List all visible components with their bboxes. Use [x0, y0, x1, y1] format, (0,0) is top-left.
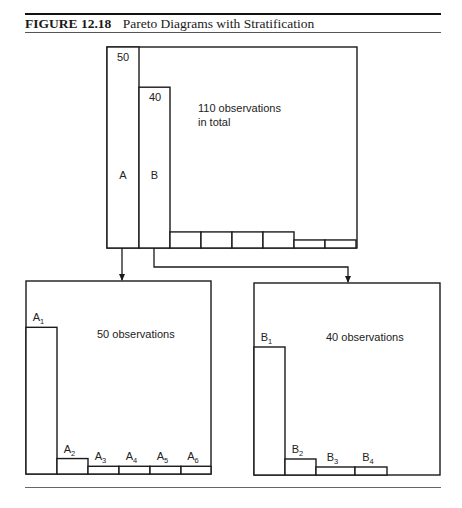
bar-category-subscript: 3 [334, 457, 338, 466]
bar-category-subscript: 2 [299, 449, 303, 458]
bar-category-subscript: 4 [370, 457, 374, 466]
bar-b [139, 87, 170, 248]
stratification-arrows [119, 248, 351, 283]
bar-a6 [181, 466, 211, 474]
bar-category-subscript: 2 [71, 449, 75, 458]
bar-other-5 [263, 232, 294, 248]
bar-category-label: A6 [187, 450, 199, 465]
chart-annotation: 50 observations [97, 328, 175, 340]
bottom-rule [25, 487, 441, 488]
bar-a2 [57, 459, 88, 474]
chart-annotation: 110 observations [198, 102, 281, 114]
bar-a3 [88, 466, 119, 474]
stratum-b-pareto-chart: B1B2B3B440 observations [254, 283, 440, 475]
stratum-a-pareto-chart: A1A2A3A4A5A650 observations [26, 281, 211, 474]
bar-other-6 [294, 240, 325, 248]
bar-value-label: 50 [117, 51, 129, 63]
bar-category-subscript: 3 [102, 456, 106, 465]
pareto-diagrams: 50A40B110 observationsin total A1A2A3A4A… [0, 0, 462, 508]
bar-b1 [254, 347, 285, 475]
arrow-head-icon [345, 276, 351, 283]
bar-a5 [150, 466, 181, 474]
arrow-head-icon [119, 274, 125, 281]
bar-other-2 [170, 232, 201, 248]
bar-b4 [355, 467, 387, 475]
bar-category-subscript: 4 [133, 456, 137, 465]
bar-category-label: A3 [95, 450, 107, 465]
bar-category-subscript: 5 [164, 456, 168, 465]
bar-other-7 [325, 240, 356, 248]
bar-category-label: B2 [292, 443, 304, 458]
chart-annotation: in total [198, 116, 230, 128]
bar-category-label: A2 [64, 443, 76, 458]
bar-category-label: A [119, 169, 127, 181]
bar-value-label: 40 [149, 91, 161, 103]
bar-a [107, 47, 139, 248]
bar-other-4 [232, 232, 263, 248]
bar-category-subscript: 6 [195, 456, 199, 465]
bar-category-label: A1 [33, 311, 45, 326]
bar-category-label: B1 [261, 331, 273, 346]
bar-category-label: A4 [126, 450, 138, 465]
chart-annotation: 40 observations [326, 331, 404, 343]
bar-category-label: B [151, 169, 158, 181]
bar-a4 [119, 466, 150, 474]
overall-pareto-chart: 50A40B110 observationsin total [107, 47, 357, 248]
arrow-b-to-stratum-b [154, 248, 348, 282]
bar-b3 [316, 467, 355, 475]
bar-category-subscript: 1 [40, 317, 44, 326]
bar-category-label: B3 [327, 451, 339, 466]
bar-other-3 [201, 232, 232, 248]
bar-a1 [26, 327, 57, 474]
bar-b2 [285, 459, 316, 475]
bar-category-label: A5 [157, 450, 169, 465]
bar-category-label: B4 [362, 451, 374, 466]
bar-category-subscript: 1 [268, 337, 272, 346]
